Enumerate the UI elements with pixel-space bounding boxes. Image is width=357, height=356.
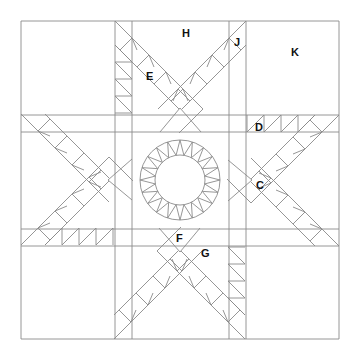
quilt-star-diagram bbox=[0, 0, 357, 356]
block-outline bbox=[21, 21, 339, 339]
label-d: D bbox=[255, 122, 263, 133]
label-e: E bbox=[146, 71, 153, 82]
center-ring bbox=[140, 140, 220, 220]
star-arms bbox=[21, 21, 339, 339]
label-h: H bbox=[182, 28, 190, 39]
label-k: K bbox=[291, 47, 299, 58]
label-j: J bbox=[234, 37, 240, 48]
label-c: C bbox=[256, 180, 264, 191]
label-f: F bbox=[176, 233, 183, 244]
label-g: G bbox=[201, 248, 210, 259]
